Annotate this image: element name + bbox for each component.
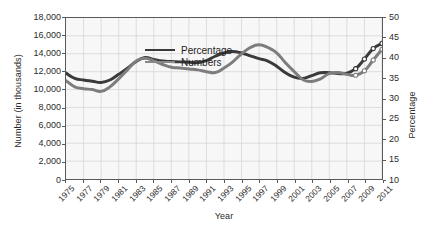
y-axis-right-tick-label: 40	[389, 53, 415, 62]
legend-label-percentage: Percentage	[181, 45, 232, 56]
x-axis-tick-mark	[348, 180, 349, 183]
y-axis-left-tick-label: 8,000	[17, 103, 61, 112]
x-axis-tick-mark	[295, 180, 296, 183]
y-axis-right-tick-label: 45	[389, 33, 415, 42]
y-axis-right-tick-mark	[383, 160, 386, 161]
y-axis-right-tick-mark	[383, 58, 386, 59]
legend: Percentage Numbers	[143, 42, 236, 70]
x-axis-tick-mark	[224, 180, 225, 183]
y-axis-left-tick-label: 4,000	[17, 139, 61, 148]
x-axis-tick-mark	[83, 180, 84, 183]
x-axis-tick-mark	[65, 180, 66, 183]
x-axis-tick-mark	[259, 180, 260, 183]
y-axis-right-tick-label: 50	[389, 13, 415, 22]
legend-item-numbers: Numbers	[145, 56, 232, 68]
line-chart: Number (in thousands) Percentage Year 02…	[0, 0, 428, 233]
y-axis-left-tick-label: 0	[17, 176, 61, 185]
y-axis-right-tick-mark	[383, 139, 386, 140]
x-axis-tick-mark	[277, 180, 278, 183]
x-axis-tick-mark	[136, 180, 137, 183]
x-axis-tick-mark	[206, 180, 207, 183]
y-axis-left-tick-label: 10,000	[17, 85, 61, 94]
y-axis-right-tick-label: 20	[389, 135, 415, 144]
y-axis-left-tick-label: 2,000	[17, 157, 61, 166]
y-axis-left-tick-label: 16,000	[17, 31, 61, 40]
x-axis-tick-mark	[189, 180, 190, 183]
x-axis-tick-mark	[171, 180, 172, 183]
y-axis-right-tick-label: 10	[389, 176, 415, 185]
y-axis-right-tick-mark	[383, 37, 386, 38]
y-axis-right-tick-label: 30	[389, 94, 415, 103]
y-axis-right-tick-mark	[383, 78, 386, 79]
legend-swatch-numbers	[145, 61, 175, 63]
x-axis-tick-mark	[383, 180, 384, 183]
y-axis-left-tick-label: 6,000	[17, 121, 61, 130]
y-axis-right-tick-label: 15	[389, 155, 415, 164]
y-axis-right-tick-label: 25	[389, 114, 415, 123]
x-axis-tick-mark	[242, 180, 243, 183]
x-axis-tick-mark	[312, 180, 313, 183]
y-axis-left-tick-label: 18,000	[17, 13, 61, 22]
x-axis-tick-mark	[153, 180, 154, 183]
legend-swatch-percentage	[145, 49, 175, 51]
legend-label-numbers: Numbers	[181, 57, 222, 68]
y-axis-left-tick-label: 14,000	[17, 49, 61, 58]
x-axis-tick-mark	[330, 180, 331, 183]
plot-area: Percentage Numbers	[65, 17, 383, 180]
x-axis-tick-mark	[365, 180, 366, 183]
y-axis-left-tick-label: 12,000	[17, 67, 61, 76]
y-axis-right-tick-mark	[383, 17, 386, 18]
y-axis-right-tick-mark	[383, 99, 386, 100]
x-axis-tick-mark	[100, 180, 101, 183]
x-axis-tick-mark	[118, 180, 119, 183]
y-axis-right-tick-label: 35	[389, 74, 415, 83]
y-axis-right-tick-mark	[383, 119, 386, 120]
legend-item-percentage: Percentage	[145, 44, 232, 56]
